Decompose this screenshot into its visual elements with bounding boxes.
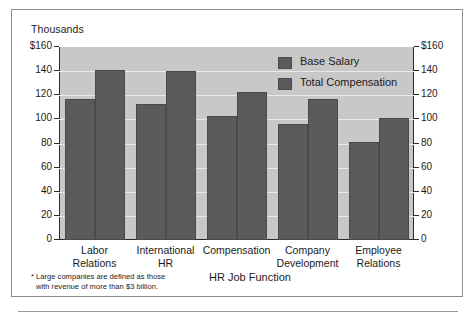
- y-tick-label-left: 60: [41, 161, 52, 172]
- bar: [379, 118, 409, 240]
- y-tick-label-right: $160: [421, 40, 443, 51]
- x-category-label-line: Compensation: [201, 244, 272, 257]
- y-tick-mark-left: [54, 70, 59, 71]
- x-category-label-line: Employee: [343, 244, 414, 257]
- y-tick-label-right: 80: [421, 137, 432, 148]
- legend-swatch: [278, 78, 292, 90]
- y-tick-label-left: 100: [35, 112, 52, 123]
- legend-swatch: [278, 57, 292, 69]
- bar: [65, 99, 95, 240]
- y-tick-label-left: 140: [35, 64, 52, 75]
- y-tick-mark-right: [414, 215, 419, 216]
- x-category-label-line: Company: [272, 244, 343, 257]
- x-category-label-line: International: [130, 244, 201, 257]
- bottom-rule: [18, 311, 458, 312]
- y-tick-mark-right: [414, 46, 419, 47]
- y-tick-label-right: 140: [421, 64, 438, 75]
- bar: [136, 104, 166, 240]
- y-tick-mark-right: [414, 118, 419, 119]
- legend-label: Base Salary: [300, 55, 359, 67]
- y-tick-mark-right: [414, 239, 419, 240]
- x-category-label: InternationalHR: [130, 244, 201, 269]
- y-tick-mark-right: [414, 191, 419, 192]
- x-category-label: CompanyDevelopment: [272, 244, 343, 269]
- footnote-line-2: with revenue of more than $3 billion.: [31, 282, 236, 292]
- legend-label: Total Compensation: [300, 76, 397, 88]
- y-tick-mark-right: [414, 143, 419, 144]
- footnote: * Large companies are defined as those w…: [31, 272, 236, 291]
- y-axis-units-caption: Thousands: [31, 23, 84, 35]
- footnote-line-1: * Large companies are defined as those: [31, 272, 236, 282]
- y-tick-label-left: 120: [35, 88, 52, 99]
- y-tick-mark-left: [54, 94, 59, 95]
- y-tick-label-right: 100: [421, 112, 438, 123]
- bar: [349, 142, 379, 240]
- x-category-label: LaborRelations: [59, 244, 130, 269]
- y-tick-label-left: 80: [41, 137, 52, 148]
- bar-group: [207, 47, 267, 240]
- bar: [308, 99, 338, 240]
- y-tick-label-right: 120: [421, 88, 438, 99]
- y-tick-mark-left: [54, 46, 59, 47]
- y-tick-label-right: 0: [421, 233, 427, 244]
- y-tick-label-left: 0: [46, 233, 52, 244]
- y-tick-label-right: 20: [421, 209, 432, 220]
- y-tick-mark-left: [54, 215, 59, 216]
- x-category-label-line: Development: [272, 257, 343, 270]
- y-tick-label-left: $160: [30, 40, 52, 51]
- y-tick-mark-left: [54, 191, 59, 192]
- bar: [166, 71, 196, 240]
- bar: [237, 92, 267, 240]
- y-tick-mark-left: [54, 143, 59, 144]
- y-tick-label-right: 60: [421, 161, 432, 172]
- x-category-label: EmployeeRelations: [343, 244, 414, 269]
- bar-group: [65, 47, 125, 240]
- chart-figure: Thousands $160$1601401401201201001008080…: [0, 0, 474, 320]
- x-category-label-line: Relations: [59, 257, 130, 270]
- bar: [278, 124, 308, 240]
- y-tick-label-left: 20: [41, 209, 52, 220]
- y-tick-mark-right: [414, 70, 419, 71]
- y-tick-mark-right: [414, 167, 419, 168]
- y-tick-label-left: 40: [41, 185, 52, 196]
- y-tick-label-right: 40: [421, 185, 432, 196]
- y-tick-mark-left: [54, 239, 59, 240]
- bar-group: [136, 47, 196, 240]
- x-category-label-line: Relations: [343, 257, 414, 270]
- y-tick-mark-left: [54, 118, 59, 119]
- x-category-label: Compensation: [201, 244, 272, 257]
- x-category-label-line: Labor: [59, 244, 130, 257]
- x-category-label-line: HR: [130, 257, 201, 270]
- bar: [95, 70, 125, 240]
- bar: [207, 116, 237, 240]
- y-tick-mark-right: [414, 94, 419, 95]
- y-tick-mark-left: [54, 167, 59, 168]
